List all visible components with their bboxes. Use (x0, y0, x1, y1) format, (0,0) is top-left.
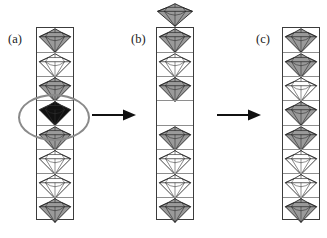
gem-gray-icon (284, 198, 318, 223)
gem-white-icon (284, 150, 318, 175)
gem-gray-icon (284, 101, 318, 126)
cell-c-0-gem-gray (283, 28, 319, 52)
gem-white-icon (284, 77, 318, 102)
cell-c-4-gem-gray (283, 125, 319, 149)
gem-gray-icon (284, 101, 318, 126)
column-c (282, 27, 320, 220)
cell-c-1-gem-gray (283, 52, 319, 76)
gem-white-icon (284, 77, 318, 102)
gem-white-icon (284, 150, 318, 175)
cell-c-5-gem-white (283, 149, 319, 173)
panel-label-c: (c) (256, 33, 270, 46)
cell-c-7-gem-gray (283, 197, 319, 221)
figure-canvas: (a)(b)(c) (0, 0, 327, 238)
gem-white-icon (284, 174, 318, 199)
cell-c-3-gem-gray (283, 100, 319, 124)
gem-gray-icon (284, 126, 318, 151)
gem-gray-icon (284, 53, 318, 78)
panel-c: (c) (0, 0, 327, 238)
cell-c-6-gem-white (283, 173, 319, 197)
gem-gray-icon (284, 28, 318, 53)
gem-gray-icon (284, 126, 318, 151)
gem-gray-icon (284, 53, 318, 78)
cell-c-2-gem-white (283, 76, 319, 100)
gem-gray-icon (284, 198, 318, 223)
gem-white-icon (284, 174, 318, 199)
gem-gray-icon (284, 28, 318, 53)
arrow-2-right-arrow-icon (216, 108, 262, 122)
arrow-1-right-arrow-icon (92, 108, 136, 122)
